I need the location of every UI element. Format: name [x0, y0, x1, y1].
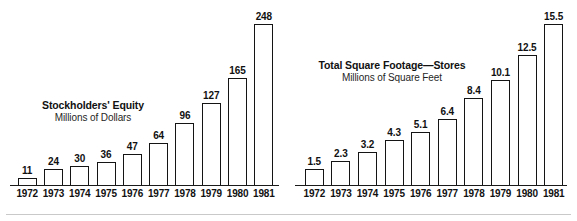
- bar-slot: 11: [14, 4, 40, 185]
- x-tick-label-1979: 1979: [198, 188, 224, 204]
- bar: [358, 152, 377, 185]
- bar-value-label: 248: [256, 11, 272, 22]
- bar-value-label: 96: [179, 110, 190, 121]
- bar-value-label: 15.5: [544, 11, 563, 22]
- bar-slot: 8.4: [461, 4, 488, 185]
- bar-slot: 248: [251, 4, 277, 185]
- chart-title-right: Total Square Footage—Stores: [293, 59, 491, 72]
- bar-slot: 4.3: [381, 4, 408, 185]
- x-tick-label-1980: 1980: [224, 188, 250, 204]
- chart-subtitle-right: Millions of Square Feet: [293, 72, 491, 85]
- x-tick-label-1977: 1977: [145, 188, 171, 204]
- bar-value-label: 4.3: [387, 127, 401, 138]
- chart-stockholders-equity: 11243036476496127165248 1972197319741975…: [0, 0, 287, 206]
- x-tick-label-1973: 1973: [40, 188, 66, 204]
- bar: [44, 169, 63, 185]
- bar-slot: 12.5: [514, 4, 541, 185]
- bar-slot: 2.3: [328, 4, 355, 185]
- bar: [202, 103, 221, 185]
- x-tick-label-1977: 1977: [434, 188, 461, 204]
- bar: [123, 154, 142, 185]
- bar: [331, 161, 350, 185]
- bar-value-label: 47: [127, 141, 138, 152]
- bar-slot: 127: [198, 4, 224, 185]
- bar: [97, 162, 116, 185]
- chart-title-block-left: Stockholders' Equity Millions of Dollars: [10, 99, 176, 125]
- bar: [464, 98, 483, 185]
- bar-value-label: 8.4: [467, 85, 481, 96]
- x-tick-label-1973: 1973: [328, 188, 355, 204]
- bar-slot: 30: [67, 4, 93, 185]
- x-tick-label-1975: 1975: [93, 188, 119, 204]
- x-axis-tick-labels-left: 1972197319741975197619771978197919801981: [14, 188, 277, 204]
- x-tick-label-1980: 1980: [514, 188, 541, 204]
- bar: [411, 132, 430, 185]
- chart-total-square-footage-stores: 1.52.33.24.35.16.48.410.112.515.5 197219…: [287, 0, 577, 206]
- x-tick-label-1976: 1976: [119, 188, 145, 204]
- x-tick-label-1974: 1974: [67, 188, 93, 204]
- bar-slot: 6.4: [434, 4, 461, 185]
- bar-slot: 64: [145, 4, 171, 185]
- plot-area-left: 11243036476496127165248: [14, 4, 277, 185]
- x-tick-label-1981: 1981: [540, 188, 567, 204]
- x-tick-label-1981: 1981: [251, 188, 277, 204]
- bar-slot: 15.5: [540, 4, 567, 185]
- x-tick-label-1979: 1979: [487, 188, 514, 204]
- x-tick-label-1972: 1972: [301, 188, 328, 204]
- bar: [70, 166, 89, 185]
- bar-value-label: 12.5: [518, 42, 537, 53]
- x-tick-label-1972: 1972: [14, 188, 40, 204]
- bar: [491, 80, 510, 185]
- bar-value-label: 165: [229, 65, 245, 76]
- bar: [228, 78, 247, 185]
- bar-slot: 24: [40, 4, 66, 185]
- x-axis-line-left: [10, 185, 279, 186]
- bar: [305, 169, 324, 185]
- bar-slot: 47: [119, 4, 145, 185]
- bar-value-label: 11: [22, 165, 32, 176]
- bar-slot: 10.1: [487, 4, 514, 185]
- x-tick-label-1978: 1978: [461, 188, 488, 204]
- bar-value-label: 36: [101, 149, 112, 160]
- x-axis-line-right: [295, 185, 567, 186]
- bar-value-label: 2.3: [334, 148, 348, 159]
- footer-divider: [6, 214, 571, 215]
- chart-title-block-right: Total Square Footage—Stores Millions of …: [293, 59, 491, 85]
- x-tick-label-1976: 1976: [407, 188, 434, 204]
- x-axis-tick-labels-right: 1972197319741975197619771978197919801981: [301, 188, 567, 204]
- bar-slot: 36: [93, 4, 119, 185]
- bar-value-label: 1.5: [307, 156, 321, 167]
- bar-slot: 165: [224, 4, 250, 185]
- bar: [175, 123, 194, 185]
- bar: [149, 143, 168, 185]
- x-tick-label-1978: 1978: [172, 188, 198, 204]
- bar-value-label: 24: [48, 156, 59, 167]
- bar-value-label: 127: [203, 90, 219, 101]
- bar-value-label: 3.2: [361, 139, 375, 150]
- bar-value-label: 64: [153, 130, 164, 141]
- bar: [254, 24, 273, 185]
- chart-title-left: Stockholders' Equity: [10, 99, 176, 112]
- bar-slot: 1.5: [301, 4, 328, 185]
- bar-slot: 5.1: [407, 4, 434, 185]
- bar: [438, 119, 457, 185]
- bar-value-label: 6.4: [440, 106, 454, 117]
- bar-slot: 96: [172, 4, 198, 185]
- bar-value-label: 5.1: [414, 119, 428, 130]
- bar: [18, 178, 37, 185]
- x-tick-label-1975: 1975: [381, 188, 408, 204]
- bar-slot: 3.2: [354, 4, 381, 185]
- figure-canvas: 11243036476496127165248 1972197319741975…: [0, 0, 577, 221]
- bar-value-label: 10.1: [491, 67, 510, 78]
- plot-area-right: 1.52.33.24.35.16.48.410.112.515.5: [301, 4, 567, 185]
- bar: [544, 24, 563, 185]
- bar: [385, 140, 404, 185]
- bar: [518, 55, 537, 185]
- chart-subtitle-left: Millions of Dollars: [10, 112, 176, 125]
- x-tick-label-1974: 1974: [354, 188, 381, 204]
- bar-value-label: 30: [74, 153, 85, 164]
